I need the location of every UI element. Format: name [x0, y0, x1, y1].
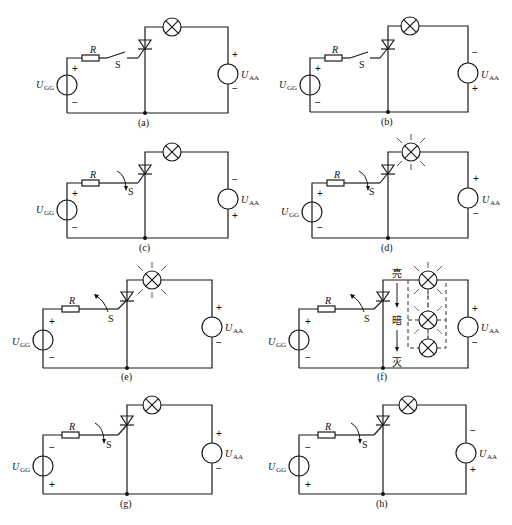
ugg-top-sign: − [49, 442, 55, 453]
switch-label: S [108, 313, 114, 324]
ugg-top-sign: + [72, 188, 78, 199]
caption-c: (c) [139, 242, 150, 254]
switch-label: S [115, 59, 121, 70]
switch-label: S [128, 186, 134, 197]
uaa-bottom-sign: − [232, 83, 238, 94]
uaa-bottom-sign: − [473, 208, 479, 219]
ugg-bottom-sign: − [305, 352, 311, 363]
uaa-label: U [241, 194, 249, 205]
ugg-label: U [281, 206, 289, 217]
ugg-bottom-sign: − [72, 222, 78, 233]
ugg-sub: GG [276, 466, 286, 474]
caption-d: (d) [381, 242, 393, 254]
ugg-bottom-sign: − [49, 352, 55, 363]
resistor-label: R [331, 44, 338, 55]
resistor-label: R [89, 44, 96, 55]
caption-h: (h) [376, 498, 388, 510]
ugg-sub: GG [289, 211, 299, 219]
panel-f: 亮 暗 灭 R S + − U GG + − U AA (f) [268, 262, 499, 383]
ugg-bottom-sign: + [49, 479, 55, 490]
uaa-top-sign: + [472, 303, 478, 314]
switch-label: S [369, 186, 375, 197]
uaa-bottom-sign: + [470, 464, 476, 475]
panel-a: R S + − U GG + − U AA (a) [36, 18, 259, 129]
caption-f: (f) [377, 371, 387, 383]
uaa-sub: AA [233, 453, 243, 461]
caption-b: (b) [381, 116, 393, 128]
panel-h: R S − + U GG − + U AA (h) [268, 396, 497, 510]
uaa-top-sign: + [216, 302, 222, 313]
uaa-top-sign: − [472, 47, 478, 58]
ugg-sub: GG [20, 466, 30, 474]
uaa-label: U [225, 322, 233, 333]
ugg-label: U [268, 461, 276, 472]
ugg-bottom-sign: + [305, 479, 311, 490]
ugg-top-sign: + [72, 63, 78, 74]
switch-label: S [359, 59, 365, 70]
ugg-bottom-sign: − [317, 222, 323, 233]
ugg-label: U [12, 461, 20, 472]
ugg-top-sign: − [305, 442, 311, 453]
ugg-top-sign: + [315, 63, 321, 74]
panel-c: R S + − U GG − + U AA (c) [36, 143, 259, 254]
ugg-label: U [12, 336, 20, 347]
uaa-sub: AA [489, 74, 499, 82]
uaa-bottom-sign: − [216, 337, 222, 348]
switch-label: S [362, 439, 368, 450]
ugg-sub: GG [276, 341, 286, 349]
uaa-top-sign: + [216, 428, 222, 439]
ugg-label: U [268, 336, 276, 347]
ugg-top-sign: + [305, 316, 311, 327]
uaa-label: U [225, 448, 233, 459]
panel-d: R S + − U GG + − U AA (d) [281, 134, 500, 254]
uaa-bottom-sign: − [216, 463, 222, 474]
uaa-top-sign: − [470, 425, 476, 436]
uaa-top-sign: + [232, 49, 238, 60]
uaa-label: U [481, 69, 489, 80]
ugg-label: U [279, 79, 287, 90]
caption-g: (g) [120, 498, 132, 510]
uaa-sub: AA [487, 453, 497, 461]
off-label: 灭 [392, 357, 402, 368]
switch-label: S [364, 313, 370, 324]
panel-g: R S − + U GG + − U AA (g) [12, 396, 243, 510]
uaa-sub: AA [249, 74, 259, 82]
resistor-label: R [333, 169, 340, 180]
ugg-label: U [36, 79, 44, 90]
ugg-bottom-sign: − [72, 97, 78, 108]
uaa-sub: AA [249, 199, 259, 207]
uaa-label: U [479, 448, 487, 459]
uaa-sub: AA [233, 327, 243, 335]
thyristor-circuits-figure: R S + − U GG + − U AA (a) R S + − U GG −… [0, 0, 512, 525]
ugg-label: U [36, 204, 44, 215]
ugg-top-sign: + [317, 188, 323, 199]
resistor-label: R [68, 421, 75, 432]
ugg-top-sign: + [49, 316, 55, 327]
uaa-sub: AA [489, 327, 499, 335]
panel-e: R S + − U GG + − U AA (e) [12, 262, 243, 383]
uaa-sub: AA [490, 199, 500, 207]
caption-a: (a) [138, 117, 149, 129]
uaa-bottom-sign: − [472, 337, 478, 348]
uaa-top-sign: − [232, 174, 238, 185]
resistor-label: R [89, 169, 96, 180]
resistor-label: R [68, 295, 75, 306]
ugg-bottom-sign: − [315, 97, 321, 108]
uaa-top-sign: + [473, 173, 479, 184]
resistor-label: R [324, 421, 331, 432]
resistor-label: R [324, 295, 331, 306]
ugg-sub: GG [44, 209, 54, 217]
uaa-label: U [481, 322, 489, 333]
ugg-sub: GG [20, 341, 30, 349]
ugg-sub: GG [287, 84, 297, 92]
ugg-sub: GG [44, 84, 54, 92]
panel-b: R S + − U GG − + U AA (b) [279, 17, 499, 128]
caption-e: (e) [121, 371, 132, 383]
uaa-label: U [241, 69, 249, 80]
switch-label: S [106, 439, 112, 450]
bright-label: 亮 [392, 267, 402, 279]
dim-label: 暗 [392, 314, 402, 326]
uaa-bottom-sign: + [232, 210, 238, 221]
uaa-bottom-sign: + [472, 83, 478, 94]
uaa-label: U [482, 194, 490, 205]
